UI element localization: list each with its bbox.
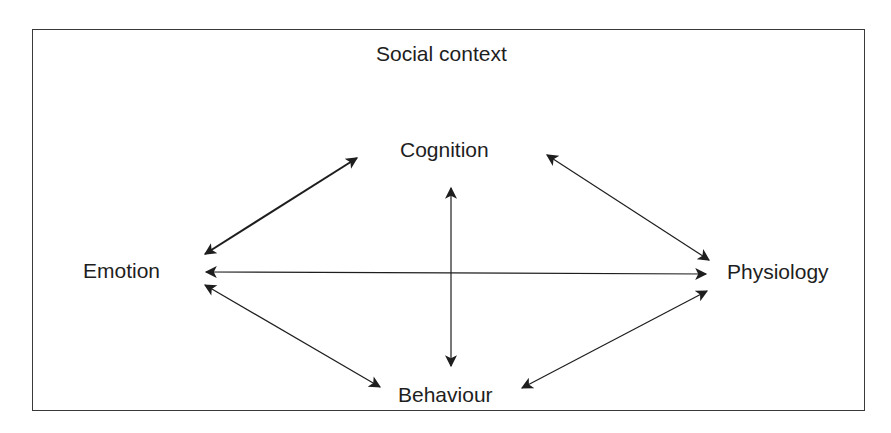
edge-emotion-physiology [206,272,706,274]
edge-cognition-physiology [547,155,709,260]
edge-emotion-cognition [205,158,357,254]
edge-emotion-behaviour [205,285,380,387]
arrows-layer [0,0,891,433]
edge-behaviour-physiology [522,291,707,388]
